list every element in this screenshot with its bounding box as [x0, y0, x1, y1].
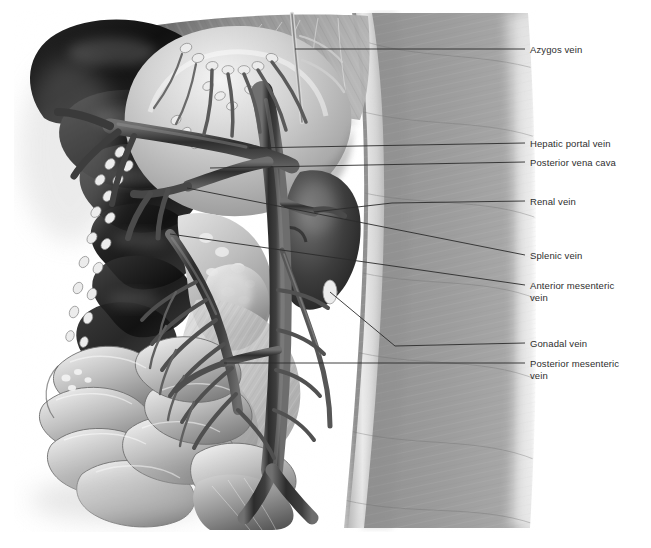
label-renal-vein: Renal vein: [530, 196, 576, 208]
paper-grain: [14, 10, 536, 532]
label-splenic-vein: Splenic vein: [530, 250, 582, 262]
label-posterior-vena-cava: Posterior vena cava: [530, 157, 616, 169]
label-azygos-vein: Azygos vein: [530, 44, 582, 56]
label-hepatic-portal-vein: Hepatic portal vein: [530, 138, 611, 150]
label-posterior-mesenteric-vein: Posterior mesenteric vein: [530, 358, 619, 381]
anatomy-artwork: [0, 0, 651, 548]
illustration-canvas: Azygos veinHepatic portal veinPosterior …: [0, 0, 651, 548]
label-gonadal-vein: Gonadal vein: [530, 338, 587, 350]
label-anterior-mesenteric-vein: Anterior mesenteric vein: [530, 280, 614, 303]
